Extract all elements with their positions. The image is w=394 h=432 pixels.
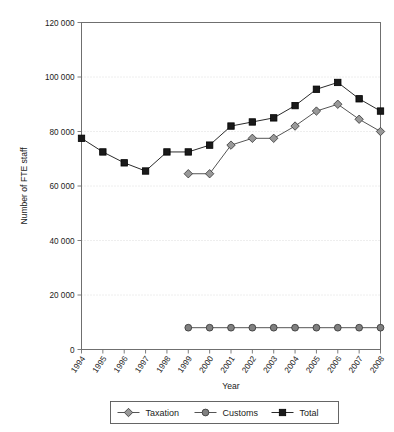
data-point: [206, 324, 213, 331]
data-point: [377, 324, 384, 331]
y-axis-title: Number of FTE staff: [19, 147, 29, 225]
data-point: [291, 122, 299, 130]
data-point: [356, 324, 363, 331]
data-point: [206, 142, 212, 148]
legend-label: Taxation: [146, 408, 180, 418]
data-point: [249, 119, 255, 125]
data-point: [334, 324, 341, 331]
data-point: [78, 135, 84, 141]
data-point: [228, 123, 234, 129]
x-tick-label: 1998: [155, 354, 173, 374]
y-tick-label: 20 000: [49, 291, 74, 300]
data-point: [205, 170, 213, 178]
data-point: [376, 127, 384, 135]
data-point: [270, 324, 277, 331]
series-markers-total: [78, 79, 383, 174]
legend-marker: [279, 409, 285, 415]
x-tick-label: 2008: [368, 354, 386, 374]
series-group: [78, 79, 384, 331]
data-point: [100, 149, 106, 155]
data-point: [313, 324, 320, 331]
data-point: [313, 86, 319, 92]
plot-frame: [82, 23, 381, 350]
data-point: [292, 102, 298, 108]
chart-container: 020 00040 00060 00080 000100 000120 000 …: [0, 0, 394, 432]
x-axis-title: Year: [222, 381, 240, 391]
data-point: [248, 134, 256, 142]
data-point: [377, 108, 383, 114]
data-point: [142, 168, 148, 174]
x-tick-label: 2005: [304, 354, 322, 374]
x-tick-label: 2003: [262, 354, 280, 374]
x-tick-label: 1995: [91, 354, 109, 374]
data-point: [335, 79, 341, 85]
x-axis-ticks-group: [82, 350, 381, 354]
x-tick-label: 1994: [69, 354, 87, 374]
y-axis-ticks-group: [78, 23, 82, 350]
data-point: [185, 324, 192, 331]
legend-label: Customs: [223, 408, 259, 418]
y-tick-label: 0: [70, 346, 75, 355]
data-point: [121, 160, 127, 166]
legend-marker: [202, 409, 209, 416]
data-point: [355, 115, 363, 123]
x-tick-label: 2002: [240, 354, 258, 374]
data-point: [312, 107, 320, 115]
x-tick-label: 2000: [197, 354, 215, 374]
y-tick-label: 80 000: [49, 128, 74, 137]
data-point: [270, 134, 278, 142]
line-chart: 020 00040 00060 00080 000100 000120 000 …: [0, 0, 394, 432]
data-point: [164, 149, 170, 155]
y-tick-label: 60 000: [49, 182, 74, 191]
data-point: [185, 149, 191, 155]
x-tick-label: 2007: [347, 354, 365, 374]
data-point: [334, 100, 342, 108]
data-point: [292, 324, 299, 331]
x-tick-label: 1996: [112, 354, 130, 374]
x-tick-label: 1997: [133, 354, 151, 374]
x-axis-tick-labels-group: 1994199519961997199819992000200120022003…: [69, 354, 386, 374]
x-tick-label: 2006: [326, 354, 344, 374]
legend-label: Total: [300, 408, 319, 418]
x-tick-label: 1999: [176, 354, 194, 374]
x-tick-label: 2004: [283, 354, 301, 374]
gridlines-group: [82, 77, 381, 295]
data-point: [249, 324, 256, 331]
y-axis-tick-labels-group: 020 00040 00060 00080 000100 000120 000: [45, 19, 75, 355]
legend: TaxationCustomsTotal: [111, 402, 339, 424]
y-tick-label: 40 000: [49, 237, 74, 246]
data-point: [271, 115, 277, 121]
x-tick-label: 2001: [219, 354, 237, 374]
data-point: [228, 324, 235, 331]
y-tick-label: 100 000: [45, 73, 75, 82]
y-tick-label: 120 000: [45, 19, 75, 28]
data-point: [356, 96, 362, 102]
data-point: [227, 141, 235, 149]
data-point: [184, 170, 192, 178]
